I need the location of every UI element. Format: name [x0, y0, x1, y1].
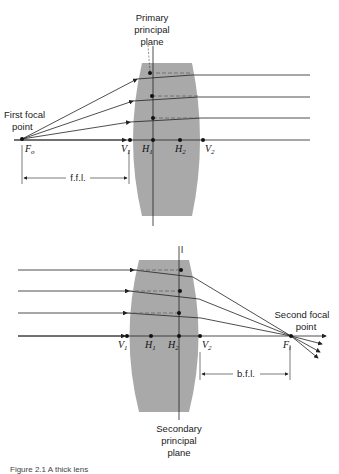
point-label-V2: V2 — [205, 143, 215, 156]
figure-caption: Figure 2.1 A thick lens — [10, 465, 88, 474]
point-label-Fi: Fi — [282, 339, 291, 352]
primary-plane-label-3: plane — [140, 36, 163, 47]
ffl-label: f.f.l. — [70, 172, 85, 183]
point-label-V1: V1 — [121, 143, 131, 156]
primary-plane-label-1: Primary — [136, 12, 169, 23]
second-focal-label-2: point — [296, 321, 317, 332]
bottom-diagram: l Secondar — [18, 244, 329, 458]
primary-plane-label-2: principal — [134, 24, 169, 35]
secondary-plane-label-2: principal — [161, 435, 196, 446]
plane-marker: l — [181, 244, 183, 255]
thick-lens-diagram: Primary principal plane First focal poin… — [0, 0, 339, 474]
top-diagram: Primary principal plane First focal poin… — [4, 12, 310, 226]
first-focal-label-1: First focal — [4, 109, 45, 120]
point-label-V2-bottom: V2 — [202, 339, 212, 352]
first-focal-label-2: point — [12, 121, 33, 132]
second-focal-label-1: Second focal — [275, 309, 330, 320]
secondary-plane-label-3: plane — [167, 447, 190, 458]
secondary-plane-label-1: Secondary — [156, 423, 202, 434]
point-label-V1-bottom: V1 — [118, 339, 128, 352]
bfl-label: b.f.l. — [237, 368, 255, 379]
point-label-Fo: Fo — [24, 143, 35, 156]
lens-top — [133, 63, 200, 216]
